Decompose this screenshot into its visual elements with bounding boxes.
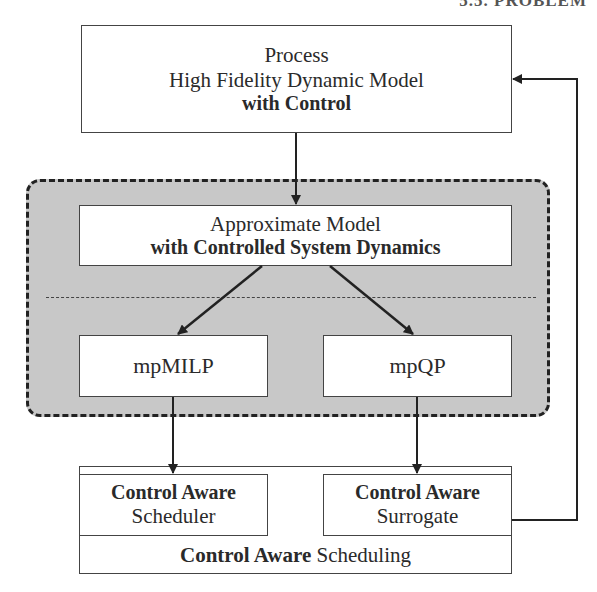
arrow-feedback-to-process	[512, 79, 577, 520]
connector-arrows	[0, 0, 597, 592]
arrow-approx-to-mpmilp	[178, 266, 262, 334]
arrow-approx-to-mpqp	[330, 266, 413, 334]
